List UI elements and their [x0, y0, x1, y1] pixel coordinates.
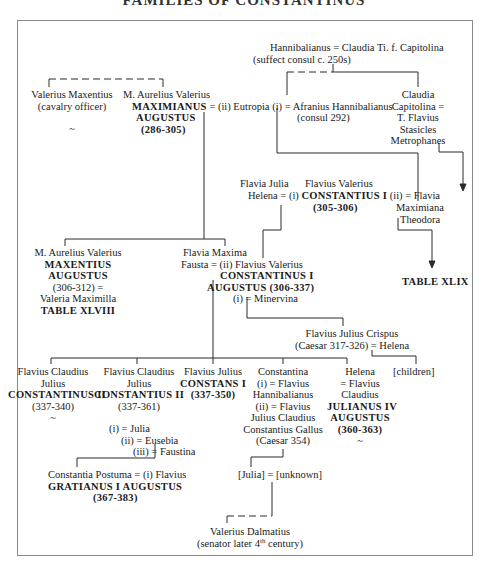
theodora-name: Maximiana Theodora: [396, 202, 444, 225]
descendants-marker: ~: [327, 435, 393, 447]
maxentius-title: AUGUSTUS: [30, 270, 126, 282]
gratianus-dates: (367-383): [48, 492, 186, 504]
node-constantius-ii: Flavius Claudius Julius CONSTANTIUS II (…: [94, 366, 184, 412]
constantius-ii-name: CONSTANTIUS II: [94, 389, 184, 401]
helena-marriage: Helena = (i): [248, 190, 301, 201]
claudia-line2: Capitolina =: [385, 101, 451, 113]
dalmatius-name: Valerius Dalmatius: [190, 526, 310, 538]
dalmatius-note-pre: (senator later 4: [197, 538, 260, 549]
claudia-line3: T. Flavius: [385, 112, 451, 124]
descendants-marker: ~: [28, 123, 116, 135]
constans-name: CONSTANS I: [176, 378, 250, 390]
theodora-marriage: (ii) = Flavia: [387, 190, 440, 201]
julianus-dates: (360-363): [327, 424, 393, 436]
claudia-line4: Stasicles: [385, 124, 451, 136]
node-constantinus: Flavia Maxima Fausta = (ii) Flavius Vale…: [183, 247, 314, 305]
hannibalianus-names: Hannibalianus = Claudia Ti. f. Capitolin…: [270, 42, 444, 54]
descendants-marker: ~: [8, 412, 98, 424]
c4-l1: = Flavius: [327, 378, 393, 390]
fausta-marriage: Fausta = (ii) Flavius Valerius: [181, 259, 314, 271]
node-crispus: Flavius Julius Crispus (Caesar 317-326) …: [292, 328, 412, 351]
node-maxentius: M. Aurelius Valerius MAXENTIUS AUGUSTUS …: [30, 247, 126, 316]
wife-faustina: (iii) = Faustina: [109, 446, 196, 458]
wife-eusebia: (ii) = Eusebia: [109, 435, 196, 447]
constantia-marriage: Constantia Postuma = (i) Flavius: [48, 469, 186, 481]
node-julia: [Julia] = [unknown]: [238, 469, 322, 481]
node-hannibalianus: Hannibalianus = Claudia Ti. f. Capitolin…: [270, 42, 444, 65]
c3-l1: (i) = Flavius: [240, 378, 326, 390]
c0-l1: Julius: [8, 378, 98, 390]
theodora-line1: Maximiana: [396, 202, 444, 214]
c1-l0: Flavius Claudius: [94, 366, 184, 378]
constans-dates: (337-350): [176, 389, 250, 401]
constantinus-ii-name: CONSTANTINUS II: [8, 389, 98, 401]
c3-l5: Constantius Gallus: [240, 424, 326, 436]
c3-l3: (ii) = Flavius: [240, 401, 326, 413]
node-maximianus: M. Aurelius Valerius MAXIMIANUS = (ii) E…: [123, 89, 393, 135]
maxentius-praenomen: M. Aurelius Valerius: [30, 247, 126, 259]
maximianus-title: AUGUSTUS: [123, 112, 393, 124]
constantinus-name: CONSTANTINUS I: [183, 270, 314, 282]
hannibalianus-note: (suffect consul c. 250s): [253, 54, 444, 66]
constantius-name: CONSTANTIUS I: [301, 190, 387, 201]
afranius-consul: (consul 292): [297, 112, 350, 124]
constantius-dates: (305-306): [313, 202, 358, 214]
c3-l4: Julius Claudius: [240, 412, 326, 424]
claudia-line5: Metrophanes: [385, 135, 451, 147]
node-constantinus-ii: Flavius Claudius Julius CONSTANTINUS II …: [8, 366, 98, 424]
valerius-maxentius-name: Valerius Maxentius: [28, 89, 116, 101]
maxentius-name: MAXENTIUS: [30, 259, 126, 271]
constantius-ii-wives: (i) = Julia (ii) = Eusebia (iii) = Faust…: [109, 423, 196, 458]
maxentius-spouse: Valeria Maximilla: [30, 293, 126, 305]
node-constantina: Constantina (i) = Flavius Hannibalianus …: [240, 366, 326, 447]
gratianus-name: GRATIANUS I AUGUSTUS: [48, 481, 186, 493]
c0-l0: Flavius Claudius: [8, 366, 98, 378]
constantius-ii-dates: (337-361): [94, 401, 184, 413]
fausta-name: Flavia Maxima: [183, 247, 314, 259]
wife-julia: (i) = Julia: [109, 423, 196, 435]
c3-l2: Hannibalianus: [240, 389, 326, 401]
constantinus-ii-dates: (337-340): [8, 401, 98, 413]
crispus-marriage: (Caesar 317-326) = Helena: [292, 340, 412, 352]
maximianus-dates: (286-305): [123, 124, 393, 136]
node-constantius: Helena = (i) CONSTANTIUS I (ii) = Flavia: [248, 190, 440, 202]
constantinus-title-dates: AUGUSTUS (306-337): [183, 282, 314, 294]
maximianus-praenomen: M. Aurelius Valerius: [123, 89, 393, 101]
c4-l0: Helena: [327, 366, 393, 378]
claudia-line1: Claudia: [385, 89, 451, 101]
theodora-line2: Theodora: [396, 214, 444, 226]
node-gratianus: Constantia Postuma = (i) Flavius GRATIAN…: [48, 469, 186, 504]
maximianus-name: MAXIMIANUS: [132, 101, 207, 112]
minervina-marriage: (i) = Minervina: [183, 293, 314, 305]
node-dalmatius: Valerius Dalmatius (senator later 4th ce…: [190, 526, 310, 549]
c3-l6: (Caesar 354): [240, 435, 326, 447]
constantius-praenomen: Flavius Valerius: [305, 178, 373, 190]
node-constans-i: Flavius Julius CONSTANS I (337-350): [176, 366, 250, 401]
julianus-name: JULIANUS IV: [327, 401, 393, 413]
eutropia-marriage: = (ii) Eutropia (i) = Afranius Hannibali…: [207, 101, 393, 112]
helena-name-top: Flavia Julia: [240, 178, 289, 190]
c1-l1: Julius: [94, 378, 184, 390]
crispus-name: Flavius Julius Crispus: [292, 328, 412, 340]
valerius-maxentius-role: (cavalry officer): [28, 101, 116, 113]
dalmatius-note-post: century): [265, 538, 303, 549]
maxentius-dates: (306-312) =: [30, 282, 126, 294]
table-xlix-link[interactable]: TABLE XLIX: [402, 276, 469, 288]
c4-l2: Claudius: [327, 389, 393, 401]
table-xlviii-link[interactable]: TABLE XLVIII: [30, 305, 126, 317]
julianus-title: AUGUSTUS: [327, 412, 393, 424]
node-julianus: Helena = Flavius Claudius JULIANUS IV AU…: [327, 366, 393, 447]
c2-l0: Flavius Julius: [176, 366, 250, 378]
node-crispus-children: [children]: [393, 366, 434, 378]
c3-l0: Constantina: [240, 366, 326, 378]
node-claudia-capitolina: Claudia Capitolina = T. Flavius Stasicle…: [385, 89, 451, 147]
node-valerius-maxentius: Valerius Maxentius (cavalry officer) ~: [28, 89, 116, 135]
